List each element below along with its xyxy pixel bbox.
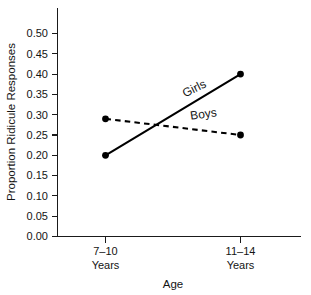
y-tick-label-6: 0.30 [27,109,48,121]
y-tick-label-1: 0.05 [27,210,48,222]
chart-canvas: 0.00 0.05 0.10 0.15 0.20 0.25 0.30 0.35 … [0,0,311,295]
x-tick-label-1-range: 11–14 [226,245,256,257]
series-girls-line [106,74,241,155]
y-tick-label-10: 0.50 [27,27,48,39]
y-tick-label-5: 0.25 [27,129,48,141]
axes-group [57,8,301,237]
x-axis-title: Age [163,278,183,290]
series-boys-line [106,119,241,135]
y-axis-title: Proportion Ridicule Responses [5,43,17,201]
x-axis-tick-labels: 7–10 Years 11–14 Years [92,245,256,271]
y-tick-label-3: 0.15 [27,169,48,181]
y-tick-label-8: 0.40 [27,68,48,80]
series-label-boys: Boys [189,105,217,123]
y-tick-label-0: 0.00 [27,230,48,242]
series-girls [102,71,244,159]
y-axis-ticks [52,34,58,237]
series-boys [102,115,244,138]
x-tick-label-0-range: 7–10 [93,245,117,257]
y-tick-label-4: 0.20 [27,149,48,161]
x-tick-label-1-unit: Years [227,259,255,271]
y-tick-label-9: 0.45 [27,48,48,60]
ridicule-responses-line-chart: 0.00 0.05 0.10 0.15 0.20 0.25 0.30 0.35 … [0,0,311,295]
series-boys-point-0 [102,115,109,122]
y-tick-label-2: 0.10 [27,190,48,202]
series-boys-point-1 [237,132,244,139]
series-girls-point-0 [102,152,109,159]
y-tick-label-7: 0.35 [27,88,48,100]
y-axis-tick-labels: 0.00 0.05 0.10 0.15 0.20 0.25 0.30 0.35 … [27,27,48,242]
series-girls-point-1 [237,71,244,78]
x-tick-label-0-unit: Years [92,259,120,271]
x-axis-ticks [106,237,241,243]
